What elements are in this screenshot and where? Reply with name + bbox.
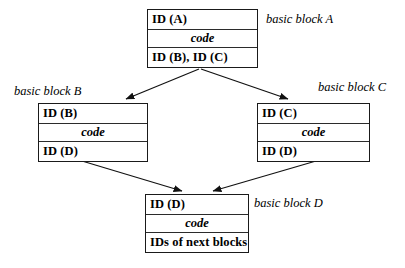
basic-block-c-label: basic block C [318,80,386,95]
basic-block-b-label: basic block B [14,84,81,99]
block-c-code-row: code [258,123,369,142]
block-b-next-row: ID (D) [39,142,147,161]
basic-block-c[interactable]: ID (C) code ID (D) [257,103,370,162]
block-b-id-row: ID (B) [39,104,147,123]
block-a-next-row: ID (B), ID (C) [148,48,257,67]
edge-a-to-b [126,69,199,99]
block-d-code-row: code [146,214,248,233]
block-c-id-row: ID (C) [258,104,369,123]
basic-block-b[interactable]: ID (B) code ID (D) [38,103,148,162]
basic-block-a[interactable]: ID (A) code ID (B), ID (C) [147,9,258,68]
block-c-next-row: ID (D) [258,142,369,161]
block-d-id-row: ID (D) [146,195,248,214]
edge-a-to-c [201,69,288,99]
block-d-next-row: IDs of next blocks [146,233,248,252]
basic-block-a-label: basic block A [266,12,333,27]
diagram-canvas: ID (A) code ID (B), ID (C) basic block A… [0,0,405,268]
block-b-code-row: code [39,123,147,142]
basic-block-d[interactable]: ID (D) code IDs of next blocks [145,194,249,253]
basic-block-d-label: basic block D [254,196,323,211]
block-a-id-row: ID (A) [148,10,257,29]
edge-b-to-d [82,161,182,191]
edge-c-to-d [213,161,316,191]
block-a-code-row: code [148,29,257,48]
